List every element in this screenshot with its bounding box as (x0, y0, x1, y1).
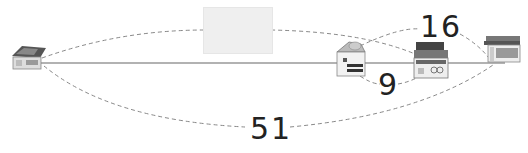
store-icon (412, 38, 450, 80)
shop-icon (335, 40, 371, 78)
distance-label-top: 16 (420, 12, 462, 42)
house-icon (8, 42, 48, 72)
distance-label-middle: 9 (378, 70, 399, 100)
distance-label-bottom: 51 (250, 114, 292, 144)
distance-diagram: 16 9 51 (0, 0, 528, 153)
storefront-icon (482, 34, 522, 64)
hidden-label-box (203, 7, 273, 54)
